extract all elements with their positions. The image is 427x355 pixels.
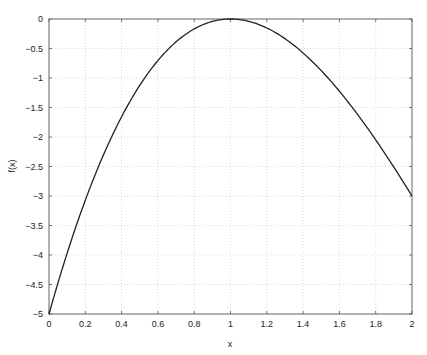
x-tick-label: 1.8 xyxy=(369,319,382,329)
x-tick-label: 1 xyxy=(228,319,233,329)
y-tick-label: −1 xyxy=(33,73,43,83)
x-tick-label: 1.2 xyxy=(261,319,274,329)
y-tick-label: 0 xyxy=(38,14,43,24)
x-tick-label: 0.8 xyxy=(188,319,201,329)
y-tick-label: −4 xyxy=(33,250,43,260)
x-tick-label: 2 xyxy=(409,319,414,329)
y-tick-label: −1.5 xyxy=(25,103,43,113)
x-tick-label: 0.6 xyxy=(152,319,165,329)
x-tick-label: 0.4 xyxy=(115,319,128,329)
line-chart: 00.20.40.60.811.21.41.61.82 0−0.5−1−1.5−… xyxy=(0,0,427,355)
y-axis-label: f(x) xyxy=(7,160,17,173)
y-tick-label: −3.5 xyxy=(25,221,43,231)
y-tick-label: −0.5 xyxy=(25,44,43,54)
y-tick-label: −3 xyxy=(33,191,43,201)
x-tick-label: 1.4 xyxy=(297,319,310,329)
y-tick-label: −5 xyxy=(33,309,43,319)
x-tick-label: 0 xyxy=(46,319,51,329)
x-axis-label: x xyxy=(228,339,233,349)
x-tick-label: 0.2 xyxy=(79,319,92,329)
y-tick-label: −4.5 xyxy=(25,280,43,290)
y-tick-label: −2.5 xyxy=(25,162,43,172)
y-tick-label: −2 xyxy=(33,132,43,142)
x-tick-label: 1.6 xyxy=(333,319,346,329)
